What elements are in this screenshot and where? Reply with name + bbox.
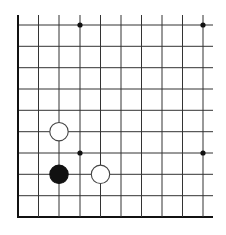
- white-stone[interactable]: [91, 165, 109, 183]
- star-point-icon: [77, 150, 82, 155]
- board-grid: [18, 15, 213, 218]
- star-point-icon: [77, 22, 82, 27]
- star-point-icon: [200, 22, 205, 27]
- black-stone[interactable]: [50, 165, 68, 183]
- star-point-icon: [200, 150, 205, 155]
- go-board: [0, 0, 226, 235]
- white-stone[interactable]: [50, 123, 68, 141]
